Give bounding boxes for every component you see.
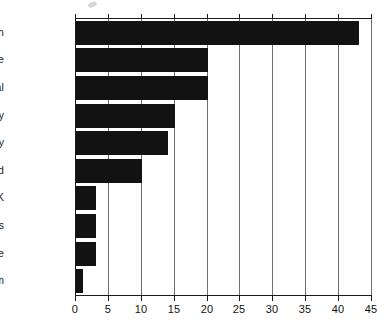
x-tick-label: 15 [168,303,181,315]
x-tick-label: 40 [332,303,345,315]
tick-mark-top [305,14,306,18]
tick-mark-top [371,14,372,18]
x-tick-label: 25 [233,303,246,315]
tick-mark-top [272,14,273,18]
bar [76,48,208,72]
scan-artifact [87,0,97,8]
gridline [338,19,339,295]
category-label: France [0,247,4,259]
tick-mark-bottom [174,296,175,301]
bar [76,21,359,45]
tick-mark-top [338,14,339,18]
tick-mark-bottom [108,296,109,301]
gridline [371,19,372,295]
bar [76,159,142,183]
category-label: UK [0,191,4,203]
category-label: Belgium [0,274,4,286]
x-tick-label: 30 [266,303,279,315]
bar-chart: 051015202530354045 SpainGreecePortugalIt… [0,0,385,327]
gridline [272,19,273,295]
tick-mark-top [239,14,240,18]
category-label: Netherlands [0,219,4,231]
category-label: Spain [0,26,4,38]
tick-mark-bottom [75,296,76,301]
bar [76,186,96,210]
plot-area: 051015202530354045 [75,18,372,296]
x-tick-label: 5 [105,303,111,315]
tick-mark-bottom [207,296,208,301]
tick-mark-top [174,14,175,18]
bottom-axis-line [75,295,372,296]
bar [76,269,83,293]
top-axis-line [75,18,372,19]
tick-mark-top [141,14,142,18]
bar [76,242,96,266]
tick-mark-bottom [141,296,142,301]
tick-mark-bottom [239,296,240,301]
x-tick-label: 35 [299,303,312,315]
category-label: Italy [0,109,4,121]
bar [76,76,208,100]
tick-mark-bottom [305,296,306,301]
bar [76,131,168,155]
tick-mark-bottom [272,296,273,301]
tick-mark-top [75,14,76,18]
category-label: Ireland [0,164,4,176]
x-tick-label: 20 [201,303,214,315]
tick-mark-bottom [371,296,372,301]
x-tick-label: 0 [72,303,78,315]
tick-mark-top [207,14,208,18]
bar [76,214,96,238]
tick-mark-bottom [338,296,339,301]
category-label: Greece [0,53,4,65]
gridline [239,19,240,295]
bar [76,104,175,128]
x-tick-label: 45 [365,303,378,315]
category-label: Germany [0,136,4,148]
category-label: Portugal [0,81,4,93]
x-tick-label: 10 [135,303,148,315]
tick-mark-top [108,14,109,18]
gridline [305,19,306,295]
